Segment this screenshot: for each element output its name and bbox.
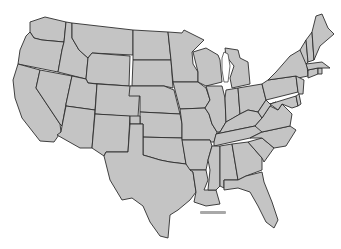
state-pa: [262, 76, 298, 100]
state-wy: [86, 53, 130, 86]
state-ks: [140, 112, 182, 138]
state-ms: [208, 146, 220, 190]
state-ri: [318, 68, 322, 74]
us-states-map: [0, 0, 341, 249]
state-sd: [132, 60, 173, 88]
state-nd: [133, 30, 171, 60]
state-ar: [182, 140, 212, 170]
state-ia: [173, 82, 210, 109]
state-me: [312, 14, 334, 60]
state-fl: [224, 172, 278, 228]
states-layer: [13, 14, 334, 238]
scale-bar: [200, 211, 226, 214]
state-nm: [92, 114, 130, 156]
